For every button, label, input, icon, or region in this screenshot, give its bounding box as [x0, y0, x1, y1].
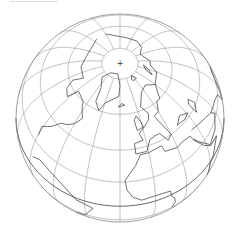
north-pole-marker: +: [117, 59, 124, 68]
globe-map: +: [0, 0, 240, 236]
coastlines: [33, 34, 223, 215]
graticule: [16, 14, 224, 222]
